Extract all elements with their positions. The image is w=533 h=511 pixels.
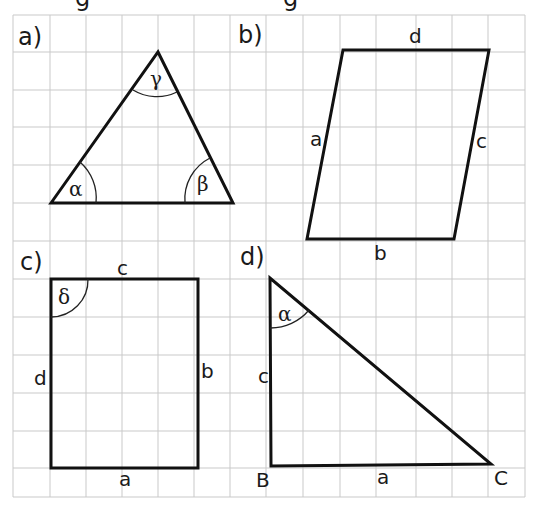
side-c-label: c [117,256,128,280]
cut-off-header-text: g g [75,0,298,12]
geometry-worksheet: g g a) α β γ b) d a c b c) δ c d b a d) [0,0,533,511]
panel-c-label: c) [20,248,43,276]
point-b-label: B [256,468,270,492]
side-c-label: c [476,129,487,153]
panel-b-parallelogram: b) d a c b [238,21,489,265]
angle-beta-label: β [197,172,209,196]
side-a-label: a [310,127,322,151]
angle-alpha-label: α [278,302,292,326]
side-d-label: d [409,24,422,48]
side-d-label: d [34,366,47,390]
cut-letter-g-2: g [283,0,298,12]
panel-d-right-triangle: d) α c a B C [240,243,508,492]
panel-c-rectangle: c) δ c d b a [20,248,214,491]
panel-b-label: b) [238,21,263,49]
side-b-label: b [374,241,387,265]
angle-gamma-label: γ [150,67,162,91]
angle-delta-label: δ [58,285,70,309]
angle-alpha-label: α [69,177,83,201]
side-c-label: c [258,364,269,388]
parallelogram-shape [307,50,489,239]
side-a-label: a [119,467,131,491]
panel-a-label: a) [18,23,42,51]
square-grid [13,15,525,497]
point-c-label: C [494,466,508,490]
side-a-label: a [377,465,389,489]
panel-d-label: d) [240,243,265,271]
side-b-label: b [201,359,214,383]
cut-letter-g-1: g [75,0,90,12]
rectangle-shape [51,279,198,468]
